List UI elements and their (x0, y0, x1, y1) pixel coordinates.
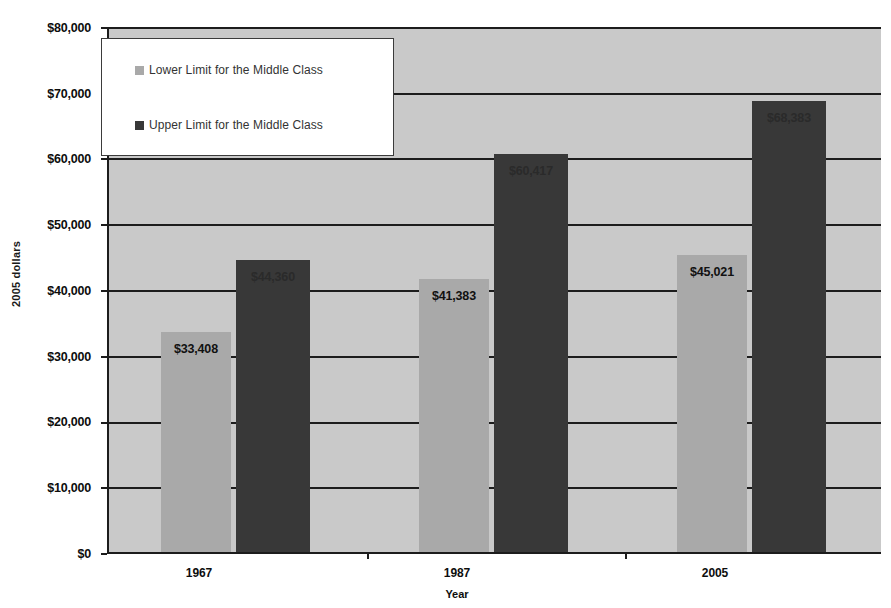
bar-upper-1987[interactable] (494, 154, 568, 552)
x-category-label-1967: 1967 (139, 566, 259, 580)
bar-upper-2005[interactable] (752, 101, 826, 552)
x-tick-mark (367, 552, 369, 559)
y-tick-label: $40,000 (13, 284, 91, 298)
y-tick-label: $70,000 (13, 87, 91, 101)
y-tick-label: $80,000 (13, 21, 91, 35)
y-tick-label: $0 (13, 547, 91, 561)
y-tick-label: $30,000 (13, 350, 91, 364)
bar-label-lower-2005: $45,021 (677, 265, 747, 279)
bar-label-lower-1967: $33,408 (161, 342, 231, 356)
legend: Lower Limit for the Middle Class Upper L… (101, 38, 394, 156)
legend-item-lower-limit[interactable]: Lower Limit for the Middle Class (135, 63, 323, 77)
legend-label-lower: Lower Limit for the Middle Class (149, 63, 323, 77)
bar-lower-1987[interactable] (419, 279, 489, 552)
bar-chart: 2005 dollars $80,000 $70,000 $60,000 $50… (0, 0, 891, 608)
bar-label-upper-2005: $68,383 (752, 111, 826, 125)
bar-label-lower-1987: $41,383 (419, 289, 489, 303)
x-axis-title: Year (397, 588, 517, 600)
legend-swatch-upper-icon (135, 121, 144, 130)
x-tick-mark (625, 552, 627, 559)
bar-upper-1967[interactable] (236, 260, 310, 552)
y-axis-tick-labels: $80,000 $70,000 $60,000 $50,000 $40,000 … (5, 0, 91, 608)
legend-swatch-lower-icon (135, 66, 144, 75)
y-tick-label: $10,000 (13, 481, 91, 495)
legend-label-upper: Upper Limit for the Middle Class (149, 118, 323, 132)
bar-lower-1967[interactable] (161, 332, 231, 552)
bar-lower-2005[interactable] (677, 255, 747, 552)
x-category-label-1987: 1987 (397, 566, 517, 580)
gridline (109, 27, 881, 29)
y-tick-label: $20,000 (13, 415, 91, 429)
x-category-label-2005: 2005 (655, 566, 775, 580)
y-tick-label: $60,000 (13, 152, 91, 166)
y-tick-label: $50,000 (13, 218, 91, 232)
bar-label-upper-1967: $44,360 (236, 270, 310, 284)
legend-item-upper-limit[interactable]: Upper Limit for the Middle Class (135, 118, 323, 132)
bar-label-upper-1987: $60,417 (494, 164, 568, 178)
